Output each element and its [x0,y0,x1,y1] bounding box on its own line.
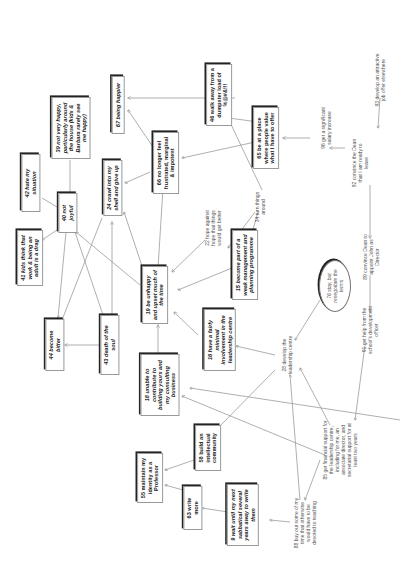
concept-node: 65 be at a place where people value what… [253,107,279,169]
concept-label: 22 hope against hope that things would g… [204,210,222,246]
concept-label: 76 stay, but renegotiate the terms [326,269,344,302]
concept-node: 92 convince the Dean that I am ready to … [351,137,369,189]
concept-label: 18 unable to contribute to building your… [144,360,176,410]
concept-node: 41 kids think that work & being an adult… [17,230,43,286]
concept-label: 85 get financial support for the leaders… [322,421,358,480]
edge-arrow [236,346,275,355]
edge-arrow [128,110,155,150]
concept-node: 63 write more [183,486,202,530]
concept-label: 88 buy out some of my time that otherwis… [293,498,317,549]
concept-node: 24 crawl into my shell and give up [103,160,122,216]
cognitive-map-diagram: 67 being happier46 walk away from a dump… [0,0,400,576]
edge-arrow [355,345,365,420]
concept-node: 55 maintain my identity as a Professor [137,453,163,503]
concept-node: 43 death of the soul [100,315,119,375]
concept-node: 19 be unhappy and upset much of the time [142,266,168,324]
concept-node: 58 build an intellectual community [195,425,221,471]
edge-arrow [295,300,320,340]
concept-label: 42 hate my situation [24,169,37,198]
concept-node: 46 walk away from a dumpster load of %@#… [206,64,232,126]
concept-node: 67 being happier [112,76,125,134]
concept-node: 15 become part of a weak management and … [232,230,258,300]
concept-node: 89 convince Dean to appoint John as Dire… [362,231,380,283]
concept-label: 19 be unhappy and upset much of the time [145,270,164,320]
concept-label: 65 be at a place where people value what… [256,112,275,164]
concept-node: 18 unable to contribute to building your… [141,354,180,416]
edge-arrow [58,232,66,318]
concept-label: 28 develop the leadership centre [281,336,293,374]
edge-arrow [76,232,140,285]
concept-node: 34 turn things around [254,189,266,225]
concept-node: 40 not joyful [58,193,77,233]
concept-label: 41 kids think that work & being an adult… [20,235,39,281]
concept-label: 44 become bitter [48,331,61,360]
concept-node: 22 hope against hope that things would g… [204,204,222,252]
edge-arrow [178,268,232,290]
concept-node: 76 stay, but renegotiate the terms [319,260,351,312]
concept-label: 91 get help from the school's developmen… [361,306,379,354]
concept-node: 88 buy out some of my time that otherwis… [293,496,317,550]
concept-label: 9 wait until my next sabbatical several … [230,489,256,541]
concept-node: 42 hate my situation [21,154,40,212]
edge-arrow [218,370,275,428]
concept-label: 96 get a significant salary increase [320,107,332,149]
concept-label: 46 walk away from a dumpster load of %@#… [209,68,228,122]
concept-label: 16 have a fairly minimal involvement in … [207,315,233,364]
concept-label: 24 crawl into my shell and give up [106,165,119,210]
concept-label: 89 convince Dean to appoint John as Dire… [362,234,380,280]
concept-label: 93 develop an attractive job offer elsew… [374,53,386,106]
edge-arrow [202,508,228,512]
edge-arrow [290,375,300,500]
concept-node: 96 get a significant salary increase [320,104,332,152]
concept-label: 55 maintain my identity as a Professor [140,458,159,498]
edge-arrow [300,368,330,425]
concept-node: 85 get financial support for the leaders… [322,418,358,482]
concept-label: 40 not joyful [61,205,74,221]
edge-arrow [174,312,198,335]
concept-node: 44 become bitter [45,319,64,371]
edge-arrow [125,172,150,183]
concept-node: 16 have a fairly minimal involvement in … [204,309,236,371]
concept-node: 93 develop an attractive job offer elsew… [374,53,386,107]
concept-node: 91 get help from the school's developmen… [361,304,379,356]
concept-label: 63 write more [186,498,199,519]
concept-node: 28 develop the leadership centre [281,333,293,377]
concept-label: 15 become part of a weak management and … [235,234,254,295]
concept-node: 39 not very happy, particularly around t… [52,97,91,159]
concept-label: 43 death of the soul [103,325,116,364]
concept-label: 92 convince the Dean that I am ready to … [351,139,369,187]
edge-arrow [172,240,205,272]
edge-arrow [190,388,400,420]
edge-arrow [305,460,320,500]
concept-label: 67 being happier [115,83,121,127]
edge-arrow [62,218,102,320]
concept-node: 66 no longer feel frustrated, marginal &… [153,132,179,194]
edge-arrow [42,228,60,240]
concept-node: 9 wait until my next sabbatical several … [227,484,259,546]
concept-label: 34 turn things around [254,192,266,222]
edge-arrow [182,142,255,158]
edge-arrow [270,520,290,522]
edge-arrow [158,188,163,268]
concept-label: 66 no longer feel frustrated, marginal &… [156,137,175,190]
concept-label: 39 not very happy, particularly around t… [55,103,87,154]
concept-label: 58 build an intellectual community [198,433,217,463]
